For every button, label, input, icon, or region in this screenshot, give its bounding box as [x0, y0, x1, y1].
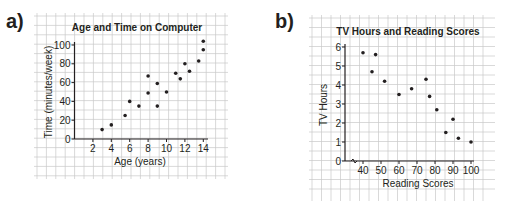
- data-point: [370, 70, 374, 74]
- x-tick-label: 50: [375, 165, 387, 176]
- x-tick-label: 90: [447, 165, 459, 176]
- y-tick-label: 2: [335, 118, 341, 129]
- data-point: [457, 136, 461, 140]
- x-tick-label: 80: [429, 165, 441, 176]
- data-point: [383, 79, 387, 83]
- data-point: [444, 131, 448, 135]
- y-tick-label: 0: [335, 156, 341, 167]
- y-tick-label: 6: [335, 42, 341, 53]
- y-tick-label: 3: [335, 99, 341, 110]
- data-point: [361, 51, 365, 55]
- data-point: [469, 140, 473, 144]
- x-axis-label-b: Reading Scores: [382, 178, 453, 189]
- y-tick-label: 5: [335, 61, 341, 72]
- y-tick-label: 4: [335, 80, 341, 91]
- x-tick-label: 100: [463, 165, 480, 176]
- ticks-b: 4050607080901000123456: [335, 42, 479, 177]
- points-b: [361, 51, 473, 144]
- data-point: [410, 87, 414, 91]
- x-tick-label: 60: [393, 165, 405, 176]
- y-axis-label-b: TV Hours: [318, 84, 329, 126]
- chart-title-b: TV Hours and Reading Scores: [336, 26, 480, 37]
- data-point: [397, 93, 401, 97]
- data-point: [428, 95, 432, 99]
- data-point: [374, 53, 378, 57]
- data-point: [424, 78, 428, 82]
- y-tick-label: 1: [335, 137, 341, 148]
- data-point: [451, 117, 455, 121]
- x-tick-label: 40: [357, 165, 369, 176]
- scatter-chart-tv-reading: 4050607080901000123456 TV Hours and Read…: [0, 0, 513, 215]
- x-tick-label: 70: [411, 165, 423, 176]
- data-point: [435, 108, 439, 112]
